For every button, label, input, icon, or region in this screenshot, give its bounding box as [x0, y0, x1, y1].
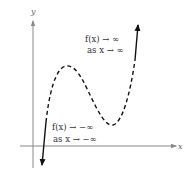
- curve-dashed-section: [46, 60, 135, 125]
- right-end-behavior-annotation: f(x) → ∞ as x → ∞: [85, 34, 124, 55]
- cubic-end-behavior-graph: y x f(x) → ∞ as x → ∞ f(x) → −∞ as x → −…: [0, 0, 190, 181]
- curve-right-end-arrow: [135, 25, 138, 60]
- right-end-line1: f(x) → ∞: [85, 34, 119, 44]
- left-end-line2: as x → −∞: [53, 134, 97, 144]
- left-end-behavior-annotation: f(x) → −∞ as x → −∞: [52, 122, 97, 144]
- right-end-line2: as x → ∞: [87, 45, 124, 55]
- left-end-line1: f(x) → −∞: [52, 122, 93, 132]
- y-axis-label: y: [30, 7, 36, 16]
- curve-left-end-arrow: [42, 122, 46, 165]
- x-axis-label: x: [178, 142, 183, 151]
